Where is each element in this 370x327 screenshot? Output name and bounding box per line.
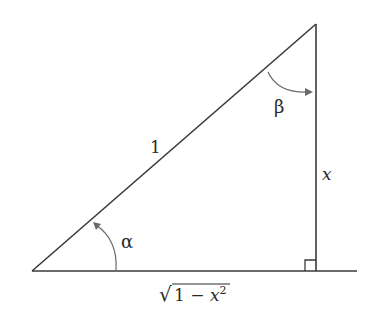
angle-alpha-label: α <box>121 231 133 252</box>
triangle-diagram: 1 x α β √ 1 − x2 <box>0 0 370 327</box>
alpha-arrowhead-icon <box>93 222 101 230</box>
hypotenuse <box>32 24 316 271</box>
hypotenuse-label: 1 <box>150 137 161 157</box>
angle-beta-label: β <box>274 96 284 117</box>
svg-text:1 − x2: 1 − x2 <box>174 284 226 305</box>
radical-sign: √ <box>159 282 172 306</box>
beta-arc-arrow <box>268 72 310 92</box>
radicand-prefix: 1 − <box>174 285 210 305</box>
alpha-arc-arrow <box>96 225 116 270</box>
right-angle-marker <box>305 260 316 271</box>
base-label: √ 1 − x2 <box>159 282 230 306</box>
radicand-exponent: 2 <box>219 284 226 297</box>
radicand-variable: x <box>210 285 220 305</box>
beta-arrowhead-icon <box>305 88 313 96</box>
vertical-side-label: x <box>322 164 332 184</box>
